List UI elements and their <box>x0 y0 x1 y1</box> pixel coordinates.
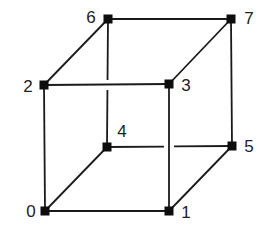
cube-diagram: 01234567 <box>0 0 274 235</box>
edge-3-7 <box>169 19 231 84</box>
edge-1-5 <box>169 146 232 211</box>
edge-2-6 <box>44 19 108 85</box>
node-1 <box>165 207 174 216</box>
node-2 <box>40 81 49 90</box>
node-3 <box>165 80 174 89</box>
node-label-0: 0 <box>26 202 35 221</box>
node-7 <box>227 15 236 24</box>
edge-0-4 <box>45 147 107 211</box>
node-label-4: 4 <box>117 122 126 141</box>
node-0 <box>41 207 50 216</box>
node-label-2: 2 <box>23 77 32 96</box>
node-label-3: 3 <box>181 76 190 95</box>
label-layer: 01234567 <box>23 8 253 222</box>
edge-5-7 <box>231 19 232 146</box>
edge-0-2 <box>44 85 45 211</box>
node-label-1: 1 <box>181 203 190 222</box>
edge-2-3 <box>44 84 169 85</box>
node-6 <box>104 15 113 24</box>
node-label-7: 7 <box>244 9 253 28</box>
node-5 <box>228 142 237 151</box>
node-4 <box>103 143 112 152</box>
node-label-6: 6 <box>86 8 95 27</box>
node-label-5: 5 <box>244 137 253 156</box>
edge-layer <box>44 19 232 211</box>
